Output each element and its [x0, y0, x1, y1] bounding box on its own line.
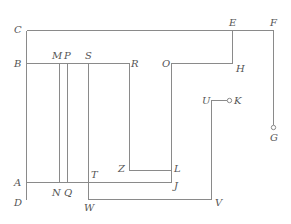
line-r-z-l — [130, 64, 172, 171]
terminal-k — [227, 98, 231, 102]
label-f: F — [269, 17, 278, 28]
label-j: J — [172, 180, 179, 191]
label-p: P — [63, 50, 71, 61]
label-m: M — [51, 50, 63, 61]
label-w: W — [84, 202, 95, 213]
label-v: V — [215, 197, 224, 208]
label-q: Q — [64, 187, 72, 198]
label-e: E — [228, 17, 237, 28]
label-c: C — [14, 24, 22, 35]
label-n: N — [51, 187, 62, 198]
label-s: S — [85, 50, 92, 61]
label-z: Z — [117, 163, 126, 174]
label-d: D — [13, 197, 22, 208]
label-b: B — [13, 58, 21, 69]
line-s-w-v-u — [89, 64, 228, 200]
label-h: H — [235, 63, 245, 74]
label-r: R — [130, 58, 139, 69]
label-g: G — [270, 132, 278, 143]
label-o: O — [162, 58, 170, 69]
label-u: U — [202, 95, 211, 106]
label-a: A — [13, 177, 21, 188]
label-t: T — [91, 169, 99, 180]
terminal-g — [271, 125, 275, 129]
label-k: K — [233, 95, 242, 106]
line-e-h-o — [172, 31, 233, 183]
label-l: L — [173, 163, 181, 174]
circuit-diagram: C B M P S R E F O H U K G Z L J A N Q T … — [0, 0, 291, 224]
